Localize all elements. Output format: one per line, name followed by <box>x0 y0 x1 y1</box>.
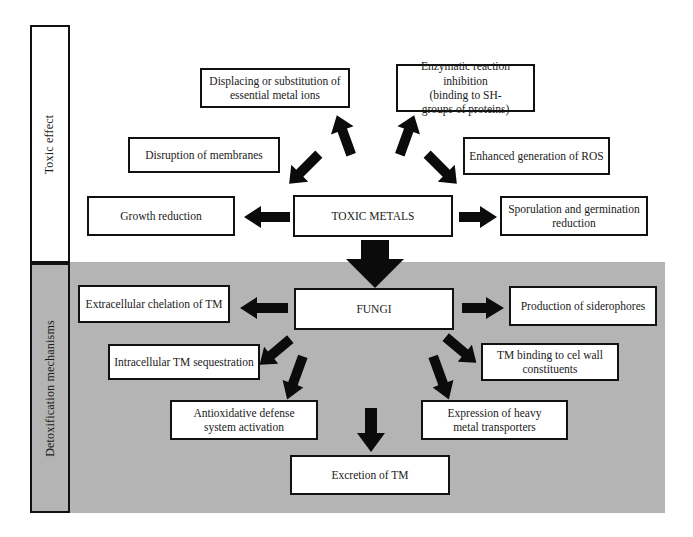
line-2: system activation <box>204 421 284 433</box>
line-1: Sporulation and germination <box>508 203 640 215</box>
node-tm-binding-cell-wall[interactable]: TM binding to cel wall constituents <box>481 343 619 381</box>
node-disruption-of-membranes[interactable]: Disruption of membranes <box>128 137 280 173</box>
node-growth-reduction[interactable]: Growth reduction <box>87 196 235 236</box>
line-1: Displacing or substitution of <box>209 75 340 87</box>
node-production-of-siderophores-label: Production of siderophores <box>515 299 651 313</box>
node-extracellular-chelation-label: Extracellular chelation of TM <box>84 297 224 311</box>
node-excretion-of-tm[interactable]: Excretion of TM <box>290 455 450 495</box>
line-3: groups of proteins) <box>422 103 510 115</box>
line-1: Expression of heavy <box>448 407 542 419</box>
node-toxic-metals-hub[interactable]: TOXIC METALS <box>293 195 453 237</box>
line-2: (binding to SH- <box>429 89 501 101</box>
node-extracellular-chelation[interactable]: Extracellular chelation of TM <box>78 285 230 323</box>
node-tm-binding-cell-wall-label: TM binding to cel wall constituents <box>487 348 613 377</box>
node-heavy-metal-transporters-label: Expression of heavy metal transporters <box>427 406 562 435</box>
node-toxic-metals-hub-label: TOXIC METALS <box>299 209 447 223</box>
line-1: TM binding to cel wall <box>497 349 603 361</box>
node-enhanced-generation-of-ros-label: Enhanced generation of ROS <box>469 149 604 163</box>
node-growth-reduction-label: Growth reduction <box>93 209 229 223</box>
arrow-toxic-to-ros <box>420 148 464 190</box>
node-fungi-hub[interactable]: FUNGI <box>294 288 454 330</box>
node-fungi-hub-label: FUNGI <box>300 302 448 316</box>
line-1: Antioxidative defense <box>193 407 294 419</box>
node-enzymatic-reaction-inhibition[interactable]: Enzymatic reaction inhibition (binding t… <box>396 64 535 112</box>
node-enhanced-generation-of-ros[interactable]: Enhanced generation of ROS <box>463 137 610 175</box>
node-intracellular-sequestration-label: Intracellular TM sequestration <box>114 355 254 369</box>
line-2: essential metal ions <box>230 89 320 101</box>
node-heavy-metal-transporters[interactable]: Expression of heavy metal transporters <box>421 400 568 440</box>
line-2: constituents <box>523 363 578 375</box>
section-label-toxic-effect: Toxic effect <box>30 25 70 263</box>
node-antioxidative-defense-label: Antioxidative defense system activation <box>176 406 312 435</box>
node-excretion-of-tm-label: Excretion of TM <box>296 468 444 482</box>
node-production-of-siderophores[interactable]: Production of siderophores <box>509 286 657 326</box>
node-enzymatic-reaction-inhibition-label: Enzymatic reaction inhibition (binding t… <box>402 59 529 117</box>
arrow-toxic-to-growth <box>244 205 290 229</box>
arrow-toxic-to-sporulation <box>459 205 497 229</box>
line-2: reduction <box>552 217 595 229</box>
node-sporulation-germination-reduction-label: Sporulation and germination reduction <box>506 202 642 231</box>
node-displacing-substitution-label: Displacing or substitution of essential … <box>206 74 344 103</box>
section-label-detoxification-text: Detoxification mechanisms <box>43 320 58 457</box>
section-label-detoxification: Detoxification mechanisms <box>30 263 70 513</box>
node-displacing-substitution[interactable]: Displacing or substitution of essential … <box>200 68 350 108</box>
diagram-canvas: Toxic effect Detoxification mechanisms D… <box>0 0 693 537</box>
line-2: metal transporters <box>453 421 536 433</box>
node-intracellular-sequestration[interactable]: Intracellular TM sequestration <box>108 344 260 380</box>
section-label-toxic-effect-text: Toxic effect <box>43 114 58 174</box>
arrow-toxic-to-enzymatic <box>388 114 426 156</box>
node-sporulation-germination-reduction[interactable]: Sporulation and germination reduction <box>500 196 648 236</box>
node-disruption-of-membranes-label: Disruption of membranes <box>134 148 274 162</box>
node-antioxidative-defense[interactable]: Antioxidative defense system activation <box>170 400 318 440</box>
arrow-toxic-to-membranes <box>282 148 326 190</box>
line-1: Enzymatic reaction inhibition <box>421 60 510 86</box>
arrow-toxic-to-displacing <box>325 114 363 156</box>
